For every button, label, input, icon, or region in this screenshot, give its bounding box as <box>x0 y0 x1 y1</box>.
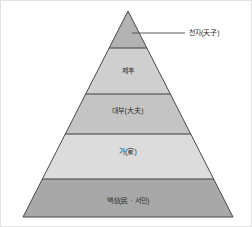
pyramid-tier-fill-2 <box>1 48 252 94</box>
pyramid-tier-fill-4 <box>1 134 252 179</box>
pyramid-tier-fill-5 <box>1 179 252 217</box>
pyramid-callout-label-1: 천자(天子) <box>189 29 220 37</box>
pyramid-tier-fill-3 <box>1 94 252 134</box>
pyramid-diagram-figure: 제후 대부(大夫) 가(家) 백성(民 · 서민) 천자(天子) <box>0 0 252 227</box>
